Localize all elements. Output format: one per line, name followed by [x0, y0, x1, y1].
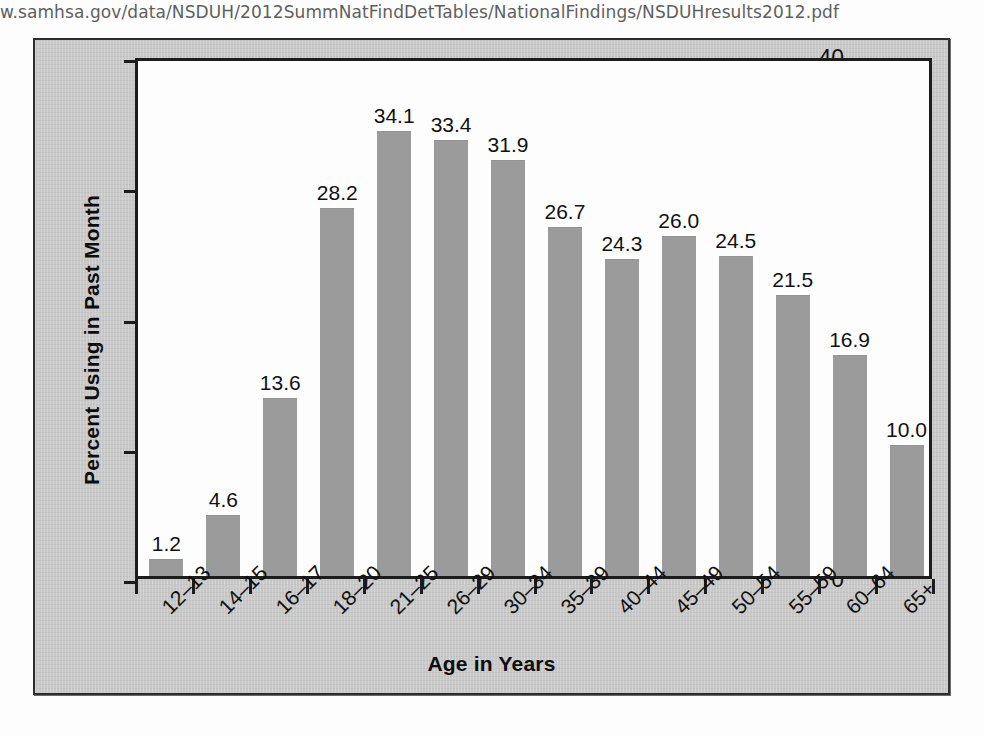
x-axis-tick	[135, 579, 138, 594]
bar	[320, 208, 354, 576]
bar-group: 24.5	[707, 61, 764, 576]
bar-value-label: 31.9	[488, 133, 529, 157]
bar-group: 13.6	[252, 61, 309, 576]
bar-value-label: 16.9	[829, 328, 870, 352]
y-axis-tick	[124, 190, 138, 193]
bar-value-label: 4.6	[209, 488, 238, 512]
bar-group: 16.9	[821, 61, 878, 576]
bar	[491, 160, 525, 576]
y-axis-tick	[124, 451, 138, 454]
bar-value-label: 26.0	[658, 209, 699, 233]
bar	[263, 398, 297, 576]
bar	[206, 515, 240, 576]
bar	[434, 140, 468, 576]
bar	[833, 355, 867, 576]
x-axis-title: Age in Years	[35, 652, 948, 676]
bar-value-label: 24.3	[601, 232, 642, 256]
y-axis-title: Percent Using in Past Month	[75, 60, 109, 620]
bar-group: 10.0	[878, 61, 935, 576]
bar	[548, 227, 582, 576]
bar-group: 26.7	[537, 61, 594, 576]
plot-area: 1.24.613.628.234.133.431.926.724.326.024…	[135, 58, 932, 579]
x-axis-tick-labels: 12–1314–1516–1718–2021–2526–2930–3435–39…	[135, 596, 932, 692]
bar-value-label: 1.2	[152, 532, 181, 556]
bar-group: 21.5	[764, 61, 821, 576]
bar-group: 31.9	[480, 61, 537, 576]
bar-group: 4.6	[195, 61, 252, 576]
bar	[605, 259, 639, 577]
bar	[776, 295, 810, 576]
chart-figure-panel: Percent Using in Past Month 010203040 1.…	[33, 38, 950, 695]
bar-group: 24.3	[593, 61, 650, 576]
bar-value-label: 24.5	[715, 229, 756, 253]
bar-value-label: 28.2	[317, 181, 358, 205]
bar-group: 1.2	[138, 61, 195, 576]
bar	[890, 445, 924, 576]
bar-value-label: 13.6	[260, 371, 301, 395]
bar-value-label: 33.4	[431, 113, 472, 137]
y-axis-tick	[124, 60, 138, 63]
bar-group: 34.1	[366, 61, 423, 576]
bar-value-label: 21.5	[772, 268, 813, 292]
bar-value-label: 10.0	[886, 418, 927, 442]
bar-group: 26.0	[650, 61, 707, 576]
bar	[377, 131, 411, 576]
bar-value-label: 26.7	[545, 200, 586, 224]
bars-layer: 1.24.613.628.234.133.431.926.724.326.024…	[138, 61, 929, 576]
source-url-text: w.samhsa.gov/data/NSDUH/2012SummNatFindD…	[0, 2, 940, 22]
bar-value-label: 34.1	[374, 104, 415, 128]
bar-group: 33.4	[423, 61, 480, 576]
bar-group: 28.2	[309, 61, 366, 576]
y-axis-tick	[124, 321, 138, 324]
bar	[662, 236, 696, 576]
bar	[149, 559, 183, 576]
y-axis-title-wrapper: Percent Using in Past Month	[77, 60, 111, 620]
bar	[719, 256, 753, 576]
